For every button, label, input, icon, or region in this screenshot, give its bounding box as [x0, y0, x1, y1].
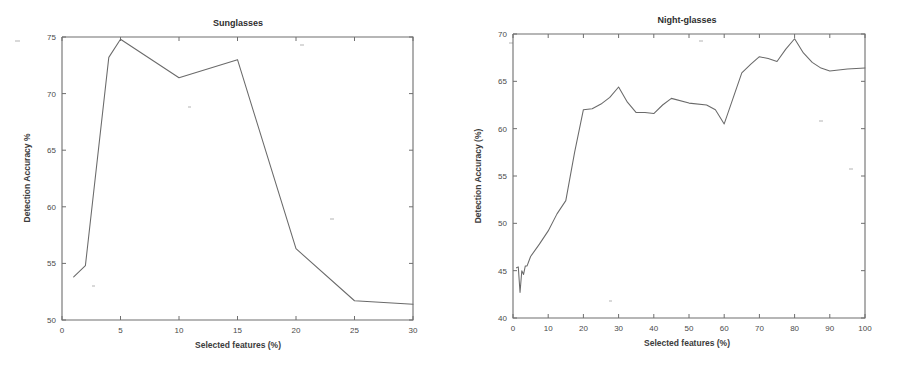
y-tick-label: 60	[47, 203, 56, 212]
x-tick-label: 70	[755, 324, 764, 333]
x-tick-label: 10	[544, 324, 553, 333]
night-glasses-chart-svg: Night-glasses 40455055606570 01020304050…	[449, 0, 898, 366]
x-tick-label: 50	[685, 324, 694, 333]
y-tick-label: 45	[498, 267, 507, 276]
chart-panel-sunglasses: Sunglasses 505560657075 051015202530 Sel…	[0, 0, 449, 366]
x-tick-label: 25	[350, 326, 359, 335]
sunglasses-y-axis-label: Detection Accuracy %	[22, 133, 32, 222]
sunglasses-x-ticks: 051015202530	[60, 37, 418, 335]
x-tick-label: 0	[511, 324, 516, 333]
y-tick-label: 70	[498, 30, 507, 39]
night-glasses-data-line	[517, 39, 865, 293]
scan-artifacts	[509, 40, 853, 302]
sunglasses-axes	[62, 37, 413, 320]
x-tick-label: 15	[233, 326, 242, 335]
sunglasses-data-line	[74, 39, 413, 304]
sunglasses-x-axis-label: Selected features (%)	[195, 340, 281, 350]
x-tick-label: 90	[825, 324, 834, 333]
y-tick-label: 40	[498, 314, 507, 323]
y-tick-label: 50	[498, 219, 507, 228]
x-tick-label: 30	[614, 324, 623, 333]
x-tick-label: 5	[118, 326, 123, 335]
night-glasses-axes	[513, 34, 865, 318]
x-tick-label: 40	[649, 324, 658, 333]
x-tick-label: 30	[409, 326, 418, 335]
y-tick-label: 65	[498, 77, 507, 86]
x-tick-label: 60	[720, 324, 729, 333]
night-glasses-y-axis-label: Detection Accuracy (%)	[473, 129, 483, 224]
chart-title-night-glasses: Night-glasses	[657, 15, 716, 25]
x-tick-label: 10	[175, 326, 184, 335]
figure-container: Sunglasses 505560657075 051015202530 Sel…	[0, 0, 898, 366]
y-tick-label: 75	[47, 33, 56, 42]
x-tick-label: 0	[60, 326, 65, 335]
y-tick-label: 60	[498, 125, 507, 134]
y-tick-label: 55	[47, 259, 56, 268]
night-glasses-x-ticks: 0102030405060708090100	[511, 34, 872, 333]
x-tick-label: 20	[292, 326, 301, 335]
sunglasses-y-ticks: 505560657075	[47, 33, 413, 325]
night-glasses-y-ticks: 40455055606570	[498, 30, 865, 323]
x-tick-label: 100	[858, 324, 872, 333]
scan-artifacts	[15, 40, 334, 287]
y-tick-label: 50	[47, 316, 56, 325]
y-tick-label: 70	[47, 90, 56, 99]
y-tick-label: 55	[498, 172, 507, 181]
x-tick-label: 80	[790, 324, 799, 333]
chart-title-sunglasses: Sunglasses	[213, 18, 263, 28]
y-tick-label: 65	[47, 146, 56, 155]
x-tick-label: 20	[579, 324, 588, 333]
chart-panel-night-glasses: Night-glasses 40455055606570 01020304050…	[449, 0, 898, 366]
night-glasses-x-axis-label: Selected features (%)	[644, 338, 730, 348]
sunglasses-chart-svg: Sunglasses 505560657075 051015202530 Sel…	[0, 0, 449, 366]
